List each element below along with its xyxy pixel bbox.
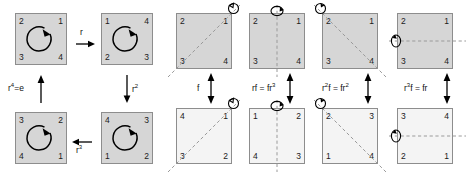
flip-arrow-f	[208, 73, 215, 104]
diagram-canvas: 2 1 3 4 1 4 2 3 4 3 1 2 3 2 4 1	[0, 0, 466, 180]
reflection-label-r3f: r3f = fr	[404, 84, 427, 93]
axis-diagonal-up	[168, 100, 240, 172]
reflection-label-rf: rf = fr3	[252, 84, 275, 93]
axis-diagonal-up	[168, 5, 240, 77]
label-exponent: 2	[345, 82, 348, 88]
reflection-label-f: f	[197, 84, 199, 93]
axis-diagonal-down	[314, 100, 386, 172]
reflection-axes-and-arrows	[0, 0, 466, 180]
axis-rotation-marker-icon	[316, 3, 326, 13]
flip-arrow-rf	[287, 73, 294, 104]
reflection-label-r2f: r2f = fr2	[322, 84, 349, 93]
axis-rotation-marker-icon	[229, 3, 239, 13]
flip-arrow-r2f	[365, 73, 372, 104]
flip-arrow-r3f	[444, 73, 451, 104]
label-exponent: 3	[272, 82, 275, 88]
label-text: f	[197, 83, 199, 93]
label-text: rf = fr	[252, 83, 272, 93]
label-text: f = fr	[328, 83, 345, 93]
label-text: f = fr	[410, 83, 427, 93]
axis-rotation-marker-icon	[316, 98, 326, 108]
axis-diagonal-down	[314, 5, 386, 77]
axis-rotation-marker-icon	[229, 98, 239, 108]
